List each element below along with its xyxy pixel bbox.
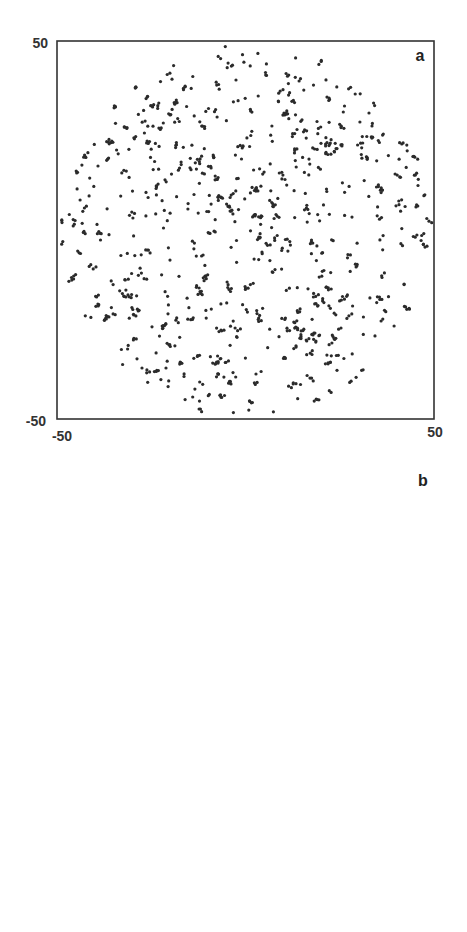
panel-letter-b: b	[418, 472, 428, 489]
x-axis-max-label: 50	[427, 424, 443, 440]
y-axis-max-label: 50	[32, 35, 48, 51]
panel-letter-a: a	[416, 47, 425, 64]
panel-b-tree-plot: -40 -20 0 20 40 40 20 0 -20 -40 b	[0, 460, 467, 932]
tree-plot-canvas: -40 -20 0 20 40 40 20 0 -20 -40 b	[0, 460, 467, 932]
scatter-points	[60, 45, 433, 414]
y-axis-min-label: -50	[26, 413, 46, 429]
panel-a-scatter-plot: 50 -50 -50 50 a	[0, 0, 467, 460]
x-axis-min-label: -50	[52, 428, 72, 444]
scatter-plot-canvas: 50 -50 -50 50 a	[0, 0, 467, 460]
